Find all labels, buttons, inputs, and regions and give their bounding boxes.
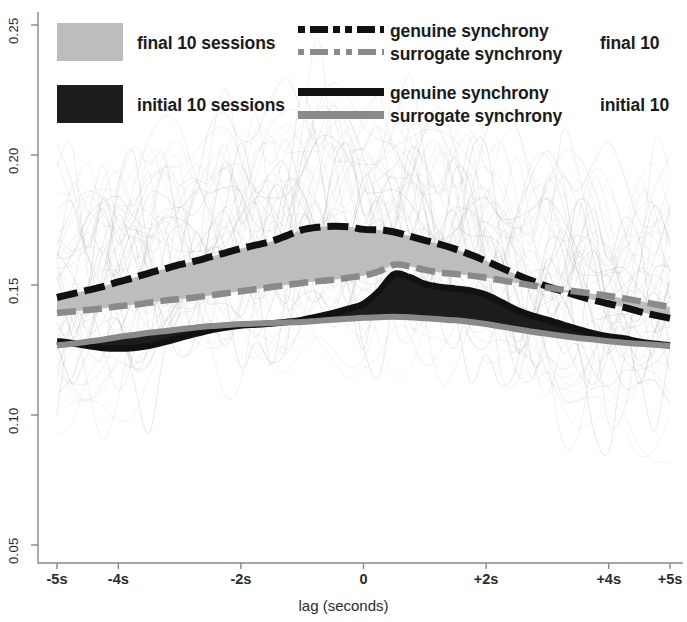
x-tick-label: -2s: [211, 571, 271, 587]
x-tick-label: +5s: [640, 571, 687, 587]
x-tick-label: +2s: [456, 571, 516, 587]
y-tick-label: 0.05: [6, 537, 21, 564]
x-axis-title: lag (seconds): [0, 597, 687, 614]
y-tick-label: 0.15: [6, 277, 21, 304]
y-tick-label: 0.25: [6, 17, 21, 44]
x-tick-label: +4s: [579, 571, 639, 587]
y-tick-label: 0.20: [6, 147, 21, 174]
synchrony-lag-figure: final 10 sessions initial 10 sessions ge…: [0, 0, 687, 622]
x-tick-label: -4s: [88, 571, 148, 587]
plot-canvas: [0, 0, 687, 622]
x-tick-label: 0: [334, 571, 394, 587]
y-tick-label: 0.10: [6, 407, 21, 434]
x-tick-label: -5s: [27, 571, 87, 587]
